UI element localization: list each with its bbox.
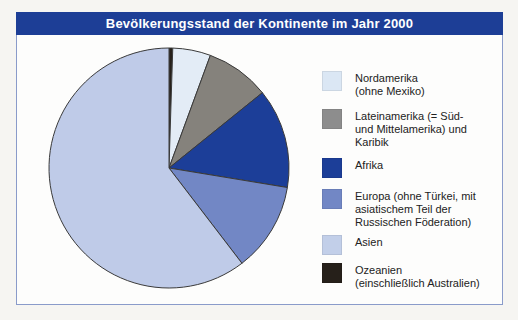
legend-swatch-nordamerika bbox=[322, 71, 342, 91]
page-background: Bevölkerungsstand der Kontinente im Jahr… bbox=[0, 0, 518, 320]
legend-item-afrika: Afrika bbox=[322, 158, 383, 178]
legend-label-afrika: Afrika bbox=[355, 158, 383, 172]
legend-swatch-ozeanien bbox=[322, 263, 342, 283]
legend-label-ozeanien: Ozeanien (einschließlich Australien) bbox=[355, 263, 480, 290]
legend-swatch-asien bbox=[322, 235, 342, 255]
chart-legend: Nordamerika (ohne Mexiko)Lateinamerika (… bbox=[322, 71, 480, 290]
legend-label-nordamerika: Nordamerika (ohne Mexiko) bbox=[355, 71, 425, 98]
legend-item-lateinamerika: Lateinamerika (= Süd- und Mittelamerika)… bbox=[322, 109, 467, 149]
legend-swatch-europa bbox=[322, 189, 342, 209]
pie-chart bbox=[47, 46, 291, 290]
legend-item-ozeanien: Ozeanien (einschließlich Australien) bbox=[322, 263, 480, 290]
legend-label-lateinamerika: Lateinamerika (= Süd- und Mittelamerika)… bbox=[355, 109, 467, 149]
chart-title-bar: Bevölkerungsstand der Kontinente im Jahr… bbox=[16, 12, 503, 35]
legend-label-asien: Asien bbox=[355, 235, 383, 249]
chart-card: Bevölkerungsstand der Kontinente im Jahr… bbox=[16, 12, 503, 305]
legend-swatch-lateinamerika bbox=[322, 109, 342, 129]
legend-swatch-afrika bbox=[322, 158, 342, 178]
legend-label-europa: Europa (ohne Türkei, mit asiatischem Tei… bbox=[355, 189, 476, 229]
chart-title: Bevölkerungsstand der Kontinente im Jahr… bbox=[106, 16, 413, 31]
legend-item-asien: Asien bbox=[322, 235, 383, 255]
legend-item-nordamerika: Nordamerika (ohne Mexiko) bbox=[322, 71, 425, 98]
legend-item-europa: Europa (ohne Türkei, mit asiatischem Tei… bbox=[322, 189, 476, 229]
